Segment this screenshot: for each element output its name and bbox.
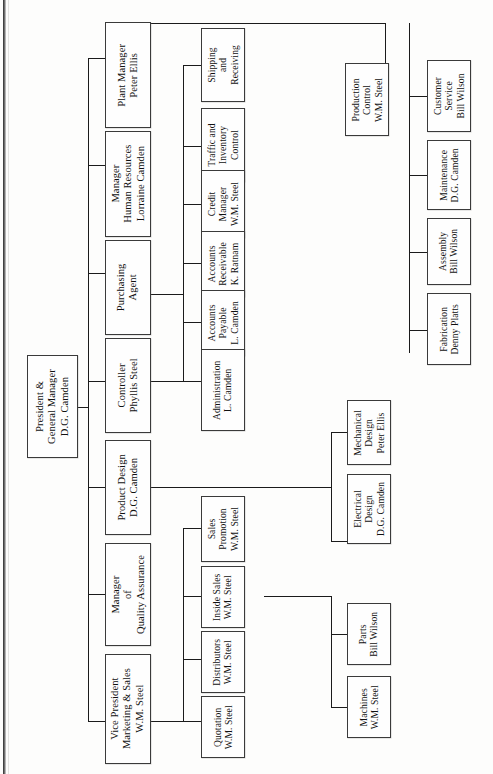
connector-quotation (183, 721, 201, 722)
node-mechanical-design-label: Mechanical Design Peter Ellis (352, 410, 386, 456)
node-electrical-design[interactable]: Electrical Design D.G. Camden (347, 474, 391, 544)
node-quotation-label: Quotation W.M. Steel (212, 705, 235, 749)
connector-traffic (183, 146, 201, 147)
connector-controller-out (150, 381, 183, 382)
node-mechanical-design[interactable]: Mechanical Design Peter Ellis (347, 400, 391, 465)
node-quality-assurance-label: Manager of Quality Assurance (109, 555, 146, 634)
connector-sales-promotion (183, 528, 201, 529)
node-quality-assurance[interactable]: Manager of Quality Assurance (105, 543, 151, 646)
connector-bus-purchasing (88, 273, 106, 274)
connector-production-control-out (409, 23, 410, 353)
connector-machines (331, 707, 347, 708)
node-vice-president[interactable]: Vice President Marketing & Sales W.M. St… (105, 654, 151, 764)
node-traffic-label: Traffic and Inventory Control (206, 123, 240, 166)
connector-product-design-bus (331, 432, 332, 542)
node-fabrication[interactable]: Fabrication Denny Platts (427, 293, 471, 365)
node-machines-label: Machines W.M. Steel (358, 685, 381, 729)
node-accounts-receivable[interactable]: Accounts Receivable K. Ratnam (201, 231, 245, 297)
scan-edge-artifact (3, 0, 6, 774)
node-accounts-payable-label: Accounts Payable L. Camden (206, 301, 240, 345)
node-parts-label: Parts Bill Wilson (358, 611, 381, 656)
connector-bus-product-design (88, 487, 106, 488)
connector-inside-sales-bus (331, 596, 332, 708)
node-production-control[interactable]: Production Control W.M. Steel (345, 63, 389, 136)
connector-plant-top-rail (150, 23, 385, 24)
node-administration-label: Administration L. Camden (212, 360, 235, 420)
node-human-resources-label: Manager Human Resources Lorraine Camden (109, 145, 146, 223)
connector-accounts-receivable (183, 263, 201, 264)
connector-distributors (183, 659, 201, 660)
node-machines[interactable]: Machines W.M. Steel (347, 676, 391, 738)
node-purchasing-label: Purchasing Agent (116, 264, 141, 312)
node-purchasing[interactable]: Purchasing Agent (105, 240, 151, 335)
node-plant-manager-label: Plant Manager Peter Ellis (116, 44, 141, 107)
node-production-control-label: Production Control W.M. Steel (350, 77, 384, 121)
node-maintenance-label: Maintenance D.G. Camden (438, 148, 461, 202)
node-assembly[interactable]: Assembly Bill Wilson (427, 218, 471, 285)
connector-main-bus (88, 58, 89, 722)
connector-customer-service (409, 96, 427, 97)
connector-maintenance (409, 175, 427, 176)
node-credit-manager[interactable]: Credit Manager W.M. Steel (201, 170, 245, 238)
node-accounts-receivable-label: Accounts Receivable K. Ratnam (206, 242, 240, 286)
connector-controller-bus (183, 204, 184, 382)
connector-administration (183, 381, 201, 382)
node-inside-sales[interactable]: Inside Sales W.M. Steel (201, 566, 245, 628)
connector-accounts-payable (183, 322, 201, 323)
node-assembly-label: Assembly Bill Wilson (438, 229, 461, 274)
connector-bus-quality-assurance (88, 594, 106, 595)
node-sales-promotion[interactable]: Sales Promotion W.M. Steel (201, 496, 245, 562)
node-vice-president-label: Vice President Marketing & Sales W.M. St… (109, 668, 146, 749)
scan-edge-artifact-2 (8, 0, 9, 774)
node-customer-service[interactable]: Customer Service Bill Wilson (427, 60, 471, 132)
node-customer-service-label: Customer Service Bill Wilson (432, 73, 466, 118)
node-quotation[interactable]: Quotation W.M. Steel (201, 696, 245, 758)
node-administration[interactable]: Administration L. Camden (201, 349, 245, 431)
node-human-resources[interactable]: Manager Human Resources Lorraine Camden (105, 131, 151, 237)
node-president[interactable]: President & General Manager D.G. Camden (27, 355, 78, 458)
connector-vice-president-out (150, 721, 183, 722)
connector-bus-plant-manager (88, 58, 106, 59)
connector-inside-sales (183, 596, 201, 597)
node-electrical-design-label: Electrical Design D.G. Camden (352, 482, 386, 536)
node-distributors-label: Distributors W.M. Steel (212, 638, 235, 685)
node-product-design-label: Product Design D.G. Camden (116, 454, 141, 520)
connector-vice-president-bus (183, 528, 184, 722)
node-plant-manager[interactable]: Plant Manager Peter Ellis (105, 22, 151, 128)
connector-bus-controller (88, 381, 106, 382)
node-distributors[interactable]: Distributors W.M. Steel (201, 631, 245, 693)
node-controller[interactable]: Controller Phyllis Steel (105, 338, 151, 433)
node-shipping-label: Shipping and Receiving (206, 45, 240, 85)
node-shipping-and-receiving[interactable]: Shipping and Receiving (201, 28, 245, 102)
node-sales-promotion-label: Sales Promotion W.M. Steel (206, 507, 240, 551)
node-controller-label: Controller Phyllis Steel (116, 358, 141, 412)
connector-shipping (183, 65, 201, 66)
org-chart-canvas: President & General Manager D.G. Camden … (0, 0, 493, 774)
node-parts[interactable]: Parts Bill Wilson (347, 603, 391, 665)
connector-product-design-out (150, 487, 332, 488)
node-fabrication-label: Fabrication Denny Platts (438, 304, 461, 355)
node-president-label: President & General Manager D.G. Camden (34, 369, 71, 444)
node-maintenance[interactable]: Maintenance D.G. Camden (427, 140, 471, 210)
node-accounts-payable[interactable]: Accounts Payable L. Camden (201, 290, 245, 356)
connector-assembly (409, 252, 427, 253)
connector-credit (183, 204, 201, 205)
connector-bus-human-resources (88, 165, 106, 166)
connector-parts (331, 634, 347, 635)
connector-fabrication (409, 330, 427, 331)
connector-electrical-design (331, 541, 347, 542)
connector-mechanical-design (331, 432, 347, 433)
node-product-design[interactable]: Product Design D.G. Camden (105, 440, 151, 535)
connector-inside-sales-out (264, 596, 332, 597)
node-inside-sales-label: Inside Sales W.M. Steel (212, 573, 235, 620)
connector-production-control-drop (385, 23, 386, 63)
connector-plant-sub-bus-join (150, 294, 184, 295)
connector-bus-vice-president (88, 721, 106, 722)
node-credit-label: Credit Manager W.M. Steel (206, 182, 240, 226)
